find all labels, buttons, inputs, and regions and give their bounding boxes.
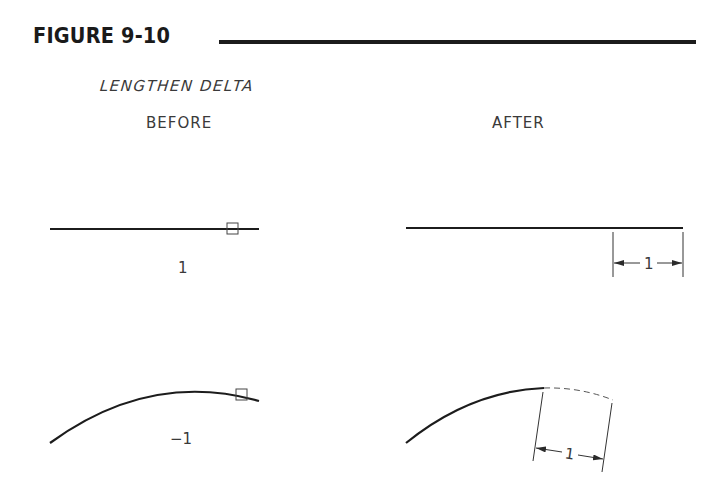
after-arc-example: 1 — [406, 388, 613, 472]
before-line-example: 1 — [50, 223, 259, 277]
after-line-dimension: 1 — [644, 255, 654, 273]
dimension-line-left — [536, 448, 562, 452]
after-line-example: 1 — [406, 228, 683, 277]
extension-line-right — [602, 403, 612, 472]
before-arc-example: −1 — [50, 389, 259, 448]
after-arc-dimension: 1 — [564, 444, 576, 463]
before-arc — [50, 392, 259, 443]
after-arc-removed-dashed — [544, 388, 613, 400]
cad-drawing: 1 1 −1 1 — [0, 0, 725, 488]
extension-line-left — [533, 392, 543, 461]
dimension-line-right — [578, 455, 603, 459]
before-line-delta: 1 — [178, 259, 188, 277]
after-arc-solid — [406, 388, 544, 443]
before-arc-delta: −1 — [170, 430, 192, 448]
